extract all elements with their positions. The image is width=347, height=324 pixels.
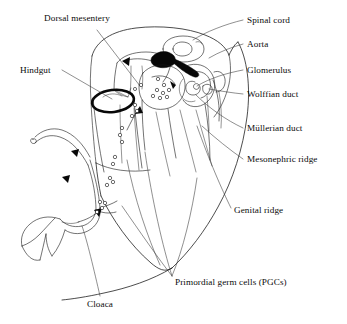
- mesonephric-ridge-shape: [183, 64, 219, 160]
- leader-hindgut: [62, 70, 112, 99]
- leader-genital-ridge: [197, 126, 231, 208]
- arrowhead-dorsal-mesentery: [122, 57, 130, 66]
- leader-mesonephric-ridge: [202, 126, 243, 159]
- label-mesonephric-ridge: Mesonephric ridge: [247, 155, 318, 165]
- leader-pgc-d: [127, 160, 160, 265]
- wolffian-duct-shape: [203, 84, 213, 131]
- label-dorsal-mesentery: Dorsal mesentery: [44, 14, 110, 24]
- leader-aorta: [209, 44, 243, 58]
- glomerulus-shape: [179, 79, 200, 102]
- leader-dorsal-mesentery: [97, 30, 140, 86]
- label-cloaca: Cloaca: [87, 300, 113, 310]
- label-hindgut: Hindgut: [20, 66, 51, 76]
- arrowhead-into-genital-ridge: [170, 81, 176, 89]
- leader-pgc-c: [172, 178, 197, 276]
- mullerian-duct-shape: [214, 71, 225, 128]
- body-outline: [62, 27, 249, 300]
- label-primordial-germ-cells: Primordial germ cells (PGCs): [175, 278, 287, 288]
- label-aorta: Aorta: [247, 40, 268, 50]
- cloaca-shape: [21, 129, 100, 261]
- leader-wolffian-duct: [209, 89, 243, 94]
- label-glomerulus: Glomerulus: [247, 66, 291, 76]
- label-genital-ridge: Genital ridge: [234, 206, 283, 216]
- label-wolffian-duct: Wolffian duct: [247, 90, 298, 100]
- genital-ridge-shape: [139, 65, 185, 158]
- leader-spinal-cord: [193, 20, 243, 40]
- label-mullerian-duct: Müllerian duct: [247, 124, 302, 134]
- arrowhead-tailgut-lower: [62, 175, 70, 183]
- leader-cloaca: [82, 226, 100, 296]
- figure-root: Dorsal mesentery Spinal cord Aorta Hindg…: [0, 0, 347, 324]
- label-spinal-cord: Spinal cord: [247, 16, 290, 26]
- hindgut-shape: [91, 88, 142, 172]
- leader-glomerulus: [197, 70, 243, 86]
- arrowhead-tailgut-upper: [71, 149, 79, 157]
